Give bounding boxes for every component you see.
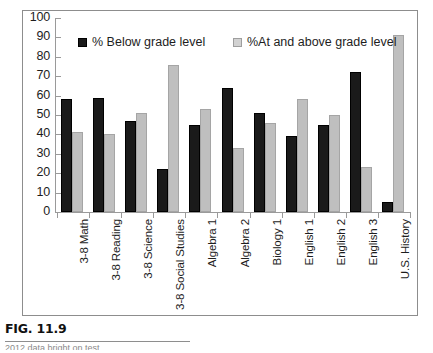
bar-below [318, 125, 329, 212]
bar-below [125, 121, 136, 212]
caption-divider [5, 341, 190, 342]
x-axis-category-label: 3-8 Science [142, 219, 154, 339]
bar-at-above [233, 148, 244, 212]
dark-square-icon [78, 38, 87, 47]
bar-at-above [265, 123, 276, 212]
legend-label: %At and above grade level [247, 36, 396, 49]
bar-below [189, 125, 200, 212]
x-axis-category-label: 3-8 Reading [110, 219, 122, 339]
bar-below [93, 98, 104, 212]
x-axis-category-label: English 3 [367, 219, 379, 339]
x-axis-category-label: 3-8 Social Studies [174, 219, 186, 339]
bar-at-above [72, 132, 83, 212]
x-axis-category-label: Algebra 2 [239, 219, 251, 339]
legend-item: % Below grade level [78, 36, 205, 49]
bar-chart: 0102030405060708090100 3-8 Math3-8 Readi… [0, 0, 433, 353]
bar-at-above [168, 65, 179, 212]
bar-at-above [297, 99, 308, 212]
x-axis-category-label: Algebra 1 [206, 219, 218, 339]
bar-below [222, 88, 233, 212]
x-axis-category-label: 3-8 Math [78, 219, 90, 339]
bar-below [157, 169, 168, 212]
bar-below [254, 113, 265, 212]
legend-label: % Below grade level [92, 36, 205, 49]
bar-at-above [104, 134, 115, 212]
bar-at-above [393, 35, 404, 212]
x-axis-category-label: English 2 [335, 219, 347, 339]
bar-at-above [361, 167, 372, 212]
bar-at-above [200, 109, 211, 212]
x-axis-category-label: English 1 [303, 219, 315, 339]
bar-below [382, 202, 393, 212]
figure-caption: FIG. 11.9 [5, 322, 428, 336]
light-square-icon [233, 38, 242, 47]
bar-below [61, 99, 72, 212]
bar-below [350, 72, 361, 212]
bar-below [286, 136, 297, 212]
caption-block: FIG. 11.9 2012 data bright on test [5, 322, 428, 350]
x-axis-category-label: Biology 1 [271, 219, 283, 339]
bar-at-above [136, 113, 147, 212]
x-axis-category-label: U.S. History [399, 219, 411, 339]
page-footer-text: 2012 data bright on test [5, 344, 428, 350]
legend-item: %At and above grade level [233, 36, 396, 49]
bar-at-above [329, 115, 340, 212]
